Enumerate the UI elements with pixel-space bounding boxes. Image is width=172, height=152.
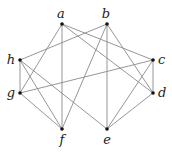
vertex-e <box>105 127 109 131</box>
edge-a-c <box>62 24 153 60</box>
vertex-label-e: e <box>103 132 111 147</box>
vertex-h <box>18 58 22 62</box>
vertex-label-c: c <box>158 52 166 67</box>
vertex-b <box>105 22 109 26</box>
vertex-d <box>151 91 155 95</box>
vertex-label-g: g <box>7 85 15 100</box>
vertex-c <box>151 58 155 62</box>
edge-b-d <box>107 24 153 93</box>
edge-a-d <box>62 24 153 93</box>
graph-diagram: abcdefgh <box>0 0 172 152</box>
edge-c-e <box>107 60 153 129</box>
vertex-g <box>18 91 22 95</box>
edges-group <box>20 24 153 129</box>
vertex-label-d: d <box>158 85 166 100</box>
edge-d-e <box>107 93 153 129</box>
edge-h-f <box>20 60 62 129</box>
vertex-label-b: b <box>102 6 110 21</box>
vertex-label-a: a <box>57 6 65 21</box>
edge-a-g <box>20 24 62 93</box>
edge-g-f <box>20 93 62 129</box>
vertex-label-f: f <box>59 132 67 147</box>
vertex-f <box>60 127 64 131</box>
vertex-label-h: h <box>7 52 15 67</box>
vertex-a <box>60 22 64 26</box>
edge-g-c <box>20 60 153 93</box>
edge-h-e <box>20 60 107 129</box>
